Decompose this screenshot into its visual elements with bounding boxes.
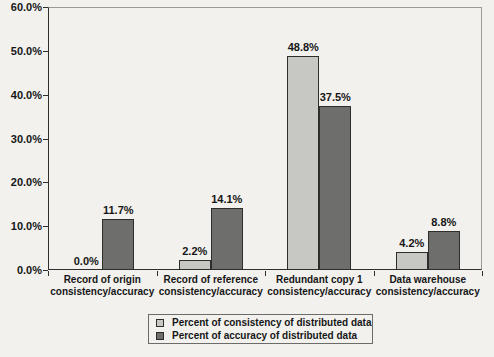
bar-accuracy	[102, 219, 134, 270]
bar-consistency	[396, 252, 428, 270]
y-axis-tick-label: 60.0%	[0, 1, 42, 13]
bar-consistency	[287, 56, 319, 270]
y-axis-tick	[43, 51, 48, 52]
bar-value-label: 37.5%	[309, 91, 361, 104]
y-axis-tick	[43, 226, 48, 227]
bar-accuracy	[211, 208, 243, 270]
legend-swatch-accuracy-icon	[156, 332, 164, 340]
bar-value-label: 14.1%	[201, 193, 253, 206]
legend-label-accuracy: Percent of accuracy of distributed data	[172, 330, 357, 341]
y-axis-tick	[43, 182, 48, 183]
bar-value-label: 8.8%	[418, 216, 470, 229]
bar-value-label: 11.7%	[92, 204, 144, 217]
legend-item-consistency: Percent of consistency of distributed da…	[156, 317, 372, 328]
bar-consistency	[179, 260, 211, 270]
y-axis-tick	[43, 7, 48, 8]
y-axis-tick-label: 50.0%	[0, 45, 42, 57]
legend: Percent of consistency of distributed da…	[148, 314, 373, 344]
bar-accuracy	[428, 231, 460, 270]
bar-accuracy	[319, 106, 351, 270]
y-axis-tick-label: 10.0%	[0, 220, 42, 232]
legend-item-accuracy: Percent of accuracy of distributed data	[156, 330, 372, 341]
category-label: Data warehouse consistency/accuracy	[364, 274, 492, 297]
y-axis-tick-label: 40.0%	[0, 89, 42, 101]
legend-swatch-consistency-icon	[156, 319, 164, 327]
y-axis-tick-label: 20.0%	[0, 176, 42, 188]
bar-chart-figure: Percent of consistency of distributed da…	[0, 0, 494, 357]
bar-value-label: 48.8%	[277, 41, 329, 54]
y-axis-tick	[43, 139, 48, 140]
y-axis-tick	[43, 95, 48, 96]
legend-label-consistency: Percent of consistency of distributed da…	[172, 317, 371, 328]
y-axis-tick-label: 0.0%	[0, 264, 42, 276]
y-axis-tick-label: 30.0%	[0, 133, 42, 145]
